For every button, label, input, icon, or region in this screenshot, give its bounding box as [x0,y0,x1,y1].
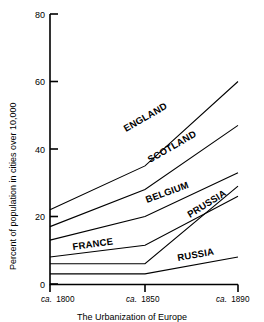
svg-text:ca. 1800: ca. 1800 [41,295,75,304]
series-label-russia: RUSSIA [176,246,214,263]
x-tick-label-1800: ca. 1800 [41,295,75,304]
x-tick-1850-prefix: ca. [126,295,137,304]
svg-text:ca. 1890: ca. 1890 [216,295,250,304]
series-label-england: ENGLAND [122,100,169,134]
y-tick-label-20: 20 [35,212,45,222]
series-label-belgium: BELGIUM [144,179,190,205]
x-tick-1850-year: 1850 [141,295,160,304]
y-tick-label-40: 40 [35,145,45,155]
series-line-england [50,82,238,210]
x-tick-1800-year: 1800 [56,295,75,304]
x-tick-label-1890: ca. 1890 [216,295,250,304]
chart-figure: 80 60 40 20 0 Percent of population in c… [0,0,264,322]
series-label-scotland: SCOTLAND [146,128,199,165]
x-tick-1800-prefix: ca. [41,295,52,304]
series-line-russia [50,257,238,274]
x-tick-1890-prefix: ca. [216,295,227,304]
y-tick-label-60: 60 [35,77,45,87]
x-tick-label-1850: ca. 1850 [126,295,160,304]
y-axis-label: Percent of population in cities over 10,… [8,102,18,270]
y-tick-label-80: 80 [35,10,45,20]
y-tick-label-0: 0 [40,280,45,290]
svg-text:ca. 1850: ca. 1850 [126,295,160,304]
x-tick-1890-year: 1890 [231,295,250,304]
chart-caption: The Urbanization of Europe [77,312,187,322]
urbanization-line-chart: 80 60 40 20 0 Percent of population in c… [0,0,264,322]
series-label-prussia: PRUSSIA [185,187,228,219]
